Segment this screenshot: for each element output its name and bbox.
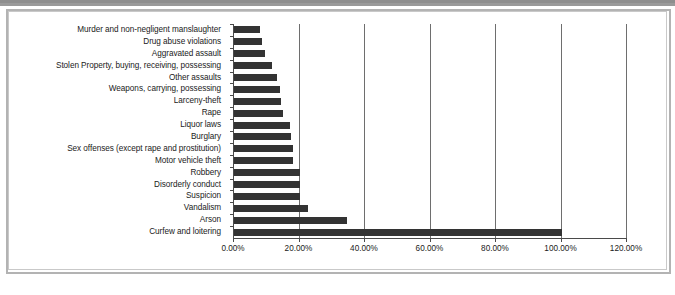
category-label: Burglary	[191, 132, 221, 142]
category-tickmark	[230, 214, 233, 215]
category-label: Motor vehicle theft	[155, 156, 221, 166]
category-label: Drug abuse violations	[143, 37, 221, 47]
bar[interactable]	[234, 62, 272, 69]
category-tickmark	[230, 226, 233, 227]
category-tickmark	[230, 131, 233, 132]
x-axis-label: 100.00%	[544, 244, 576, 254]
category-label: Aggravated assault	[152, 49, 221, 59]
gridline-6000	[430, 24, 431, 238]
category-tickmark	[230, 60, 233, 61]
category-label: Other assaults	[169, 73, 221, 83]
category-label: Disorderly conduct	[154, 180, 221, 190]
bar[interactable]	[234, 110, 283, 117]
bar[interactable]	[234, 157, 293, 164]
bar[interactable]	[234, 169, 300, 176]
x-axis-tickmark	[299, 238, 300, 242]
x-axis-label: 80.00%	[481, 244, 509, 254]
x-axis-tickmark	[626, 238, 627, 242]
x-axis-label: 20.00%	[285, 244, 313, 254]
gridline-4000	[364, 24, 365, 238]
category-label: Sex offenses (except rape and prostituti…	[67, 144, 221, 154]
bar[interactable]	[234, 205, 308, 212]
category-label: Vandalism	[184, 203, 221, 213]
x-axis-tickmark	[364, 238, 365, 242]
category-tickmark	[230, 119, 233, 120]
bar[interactable]	[234, 38, 262, 45]
category-tickmark	[230, 72, 233, 73]
x-axis-tickmark	[561, 238, 562, 242]
bar[interactable]	[234, 181, 300, 188]
bar[interactable]	[234, 122, 290, 129]
x-axis-label: 40.00%	[350, 244, 378, 254]
category-tickmark	[230, 83, 233, 84]
bar[interactable]	[234, 26, 260, 33]
gridline-8000	[495, 24, 496, 238]
category-label: Murder and non-negligent manslaughter	[77, 25, 221, 35]
x-axis-tickmark	[233, 238, 234, 242]
category-label: Arson	[200, 215, 221, 225]
x-axis-label: 60.00%	[416, 244, 444, 254]
window-top-band	[0, 0, 675, 6]
category-label: Larceny-theft	[174, 96, 221, 106]
category-tickmark	[230, 190, 233, 191]
category-tickmark	[230, 24, 233, 25]
category-tickmark	[230, 95, 233, 96]
category-label: Liquor laws	[180, 120, 221, 130]
category-tickmark	[230, 107, 233, 108]
plot-wrapper: Murder and non-negligent manslaughterDru…	[9, 12, 666, 269]
category-tickmark	[230, 202, 233, 203]
category-label: Rape	[202, 108, 221, 118]
category-label: Stolen Property, buying, receiving, poss…	[56, 61, 221, 71]
category-label: Weapons, carrying, possessing	[109, 84, 221, 94]
x-axis-label: 0.00%	[221, 244, 244, 254]
bar[interactable]	[234, 133, 291, 140]
bar[interactable]	[234, 229, 562, 236]
gridline-10000	[561, 24, 562, 238]
category-tickmark	[230, 179, 233, 180]
gridline-12000	[626, 24, 627, 238]
plot-area[interactable]	[233, 24, 626, 238]
category-tickmark	[230, 36, 233, 37]
category-tickmark	[230, 48, 233, 49]
window-top-band-shadow	[0, 0, 675, 3]
bar[interactable]	[234, 74, 277, 81]
bar[interactable]	[234, 86, 280, 93]
x-axis-label: 120.00%	[610, 244, 642, 254]
category-tickmark	[230, 155, 233, 156]
category-axis-labels: Murder and non-negligent manslaughterDru…	[9, 24, 225, 238]
category-tickmark	[230, 143, 233, 144]
bar[interactable]	[234, 217, 347, 224]
bar[interactable]	[234, 50, 265, 57]
chart-frame[interactable]: Murder and non-negligent manslaughterDru…	[8, 11, 667, 270]
category-label: Suspicion	[186, 191, 221, 201]
bar[interactable]	[234, 98, 281, 105]
bar[interactable]	[234, 145, 293, 152]
category-label: Curfew and loitering	[149, 227, 221, 237]
x-axis-tickmark	[430, 238, 431, 242]
category-tickmark	[230, 167, 233, 168]
chart-screenshot: Murder and non-negligent manslaughterDru…	[0, 0, 675, 295]
category-label: Robbery	[190, 168, 221, 178]
x-axis-tickmark	[495, 238, 496, 242]
bar[interactable]	[234, 193, 300, 200]
